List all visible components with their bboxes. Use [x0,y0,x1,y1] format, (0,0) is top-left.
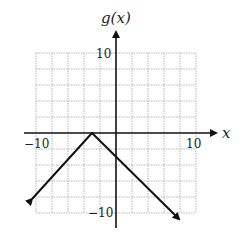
x-axis-label: x [222,124,231,142]
y-axis-label: g(x) [101,9,131,27]
x-min-tick-label: −10 [24,137,49,151]
y-min-tick-label: −10 [88,206,113,220]
y-max-tick-label: 10 [96,47,111,61]
x-max-tick-label: 10 [186,137,201,151]
graph: g(x) x 10 −10 −10 10 [0,0,242,239]
